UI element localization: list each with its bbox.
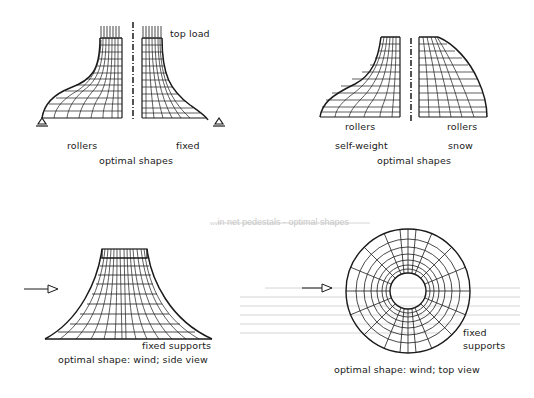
diagram-canvas: [0, 0, 534, 398]
right-profile-curve: [438, 37, 487, 117]
caption-wind-side-view: optimal shape: wind; side view: [58, 355, 208, 365]
label-self-weight: self-weight: [335, 141, 388, 151]
inner-opening: [390, 273, 426, 309]
left-mesh-radial: [54, 38, 118, 118]
wind-arrow-icon: [24, 285, 58, 293]
label-rollers: rollers: [67, 141, 97, 151]
load-arrows-right: [143, 26, 161, 37]
label-supports: supports: [463, 341, 505, 351]
label-snow: snow: [448, 141, 473, 151]
label-rollers-right: rollers: [447, 122, 477, 132]
panel-wind-side-view: [24, 249, 212, 339]
show-through-bleed: [210, 223, 520, 333]
caption-wind-top-view: optimal shape: wind; top view: [334, 365, 480, 375]
label-fixed: fixed: [463, 328, 487, 338]
fixed-support-icon: [215, 118, 223, 124]
mesh-meridians: [60, 249, 199, 339]
radial-spokes: [346, 229, 470, 353]
show-through-heading: ...in net pedestals - optimal shapes: [210, 218, 349, 227]
left-profile-curve: [320, 37, 381, 117]
label-top-load: top load: [170, 29, 210, 39]
caption-optimal-shapes: optimal shapes: [99, 156, 173, 166]
label-rollers-left: rollers: [345, 122, 375, 132]
panel-wind-top-view: [302, 229, 470, 353]
right-mesh-radial: [423, 37, 474, 117]
label-fixed: fixed: [176, 141, 200, 151]
label-fixed-supports: fixed supports: [142, 341, 211, 351]
caption-optimal-shapes: optimal shapes: [377, 156, 451, 166]
roller-support-icon: [38, 118, 46, 124]
wind-arrow-icon: [302, 284, 332, 292]
load-arrows-left: [101, 26, 119, 37]
panel-self-weight-snow: [320, 37, 487, 122]
